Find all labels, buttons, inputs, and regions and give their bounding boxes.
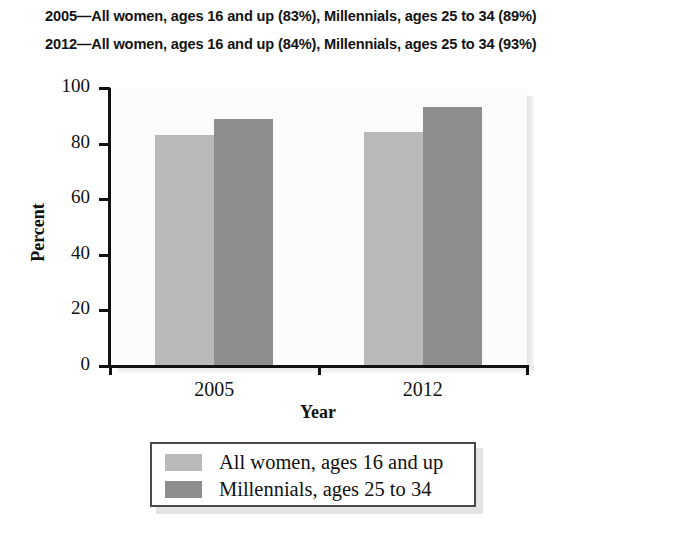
y-tick-label-20: 20 <box>38 297 90 319</box>
legend-label-all-women: All women, ages 16 and up <box>219 451 443 474</box>
y-tick-label-100: 100 <box>38 75 90 97</box>
caption-line-2012: 2012—All women, ages 16 and up (84%), Mi… <box>45 36 537 52</box>
y-tick-40 <box>99 254 110 257</box>
caption-line-2005: 2005—All women, ages 16 and up (83%), Mi… <box>45 8 537 24</box>
bar-2005-series-1 <box>214 119 273 366</box>
y-tick-label-0: 0 <box>38 353 90 375</box>
bar-2012-series-1 <box>423 107 482 366</box>
legend-swatch-millennials <box>165 481 202 498</box>
y-tick-60 <box>99 198 110 201</box>
legend-label-millennials: Millennials, ages 25 to 34 <box>219 478 431 501</box>
x-tick-0 <box>109 365 112 375</box>
x-tick-label-2005: 2005 <box>154 378 274 401</box>
legend-swatch-all-women <box>165 454 202 471</box>
y-tick-label-80: 80 <box>38 131 90 153</box>
y-tick-100 <box>99 87 110 90</box>
x-tick-1 <box>318 365 321 375</box>
x-tick-label-2012: 2012 <box>363 378 483 401</box>
y-tick-80 <box>99 143 110 146</box>
bar-2005-series-0 <box>155 135 214 366</box>
legend-item-millennials: Millennials, ages 25 to 34 <box>165 476 431 502</box>
chart-figure: 2005—All women, ages 16 and up (83%), Mi… <box>0 0 687 536</box>
y-tick-20 <box>99 309 110 312</box>
chart-legend: All women, ages 16 and up Millennials, a… <box>150 442 476 507</box>
y-axis-line <box>108 88 111 368</box>
plot-area-shadow-right <box>527 96 534 374</box>
bars-layer <box>110 88 527 366</box>
legend-item-all-women: All women, ages 16 and up <box>165 449 443 475</box>
y-axis-title: Percent <box>28 173 49 293</box>
bar-2012-series-0 <box>364 132 423 366</box>
x-tick-end <box>526 365 529 375</box>
x-axis-title: Year <box>258 402 378 423</box>
